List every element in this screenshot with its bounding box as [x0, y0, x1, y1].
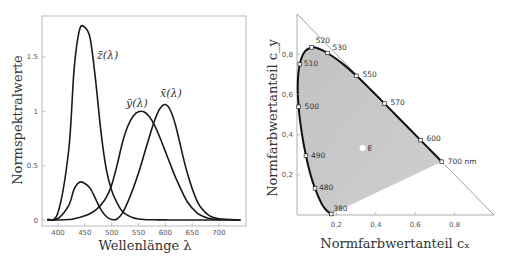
svg-text:600: 600: [159, 229, 172, 237]
svg-text:700: 700: [212, 229, 225, 237]
label-x-bar: x̄(λ): [160, 87, 182, 100]
white-point-e: [360, 145, 366, 151]
svg-text:490: 490: [311, 151, 326, 160]
marker-520: [310, 46, 314, 50]
svg-text:510: 510: [304, 59, 319, 68]
marker-570: [383, 102, 387, 106]
x-axis-label: Wellenlänge λ: [98, 238, 191, 253]
svg-text:550: 550: [132, 229, 145, 237]
svg-text:0,8: 0,8: [282, 51, 293, 59]
svg-text:650: 650: [185, 229, 198, 237]
svg-text:1.5: 1.5: [27, 53, 38, 61]
svg-text:450: 450: [78, 229, 91, 237]
curves: [47, 26, 240, 220]
svg-text:520: 520: [316, 36, 331, 45]
svg-text:600: 600: [427, 134, 442, 143]
x-ticks: 400450500550600650700: [51, 223, 225, 237]
y-axis-label: Normspektralwerte: [10, 55, 25, 185]
svg-text:1: 1: [34, 108, 38, 116]
marker-510: [298, 62, 302, 66]
svg-text:0: 0: [34, 217, 38, 225]
label-z-bar: z̄(λ): [96, 49, 118, 62]
svg-text:0,6: 0,6: [410, 221, 422, 229]
svg-text:570: 570: [390, 98, 405, 107]
chromaticity-chart: 380480490500510520530550570600700 nmE 0,…: [265, 14, 494, 251]
x-ticks: 0,20,40,60,8: [331, 212, 460, 229]
marker-550: [355, 74, 359, 78]
svg-text:0,8: 0,8: [449, 221, 460, 229]
marker-500: [297, 105, 301, 109]
marker-600: [419, 138, 423, 142]
curve-2: [47, 26, 240, 220]
marker-480: [313, 187, 317, 191]
svg-text:0,4: 0,4: [370, 221, 382, 229]
x-axis-label: Normfarbwertanteil cₓ: [320, 236, 469, 251]
svg-text:530: 530: [332, 43, 347, 52]
svg-text:E: E: [368, 144, 373, 153]
svg-text:550: 550: [362, 70, 377, 79]
svg-text:480: 480: [319, 183, 334, 192]
svg-text:0,2: 0,2: [331, 221, 342, 229]
svg-text:700 nm: 700 nm: [448, 157, 477, 166]
svg-text:500: 500: [105, 229, 118, 237]
y-axis-label: Normfarbwertanteil c_y: [265, 38, 280, 196]
spectral-chart: 400450500550600650700 00.511.5 z̄(λ) ȳ(λ…: [0, 0, 505, 267]
marker-530: [326, 51, 330, 55]
svg-text:500: 500: [305, 102, 320, 111]
label-y-bar: ȳ(λ): [125, 97, 148, 110]
marker-490: [304, 154, 308, 158]
marker-700-nm: [440, 160, 444, 164]
svg-text:0,4: 0,4: [282, 131, 294, 139]
svg-text:0,6: 0,6: [282, 91, 294, 99]
curve-1: [47, 111, 240, 220]
svg-text:0,2: 0,2: [282, 171, 293, 179]
svg-text:0.5: 0.5: [27, 162, 38, 170]
curve-0: [47, 104, 240, 220]
svg-text:380: 380: [333, 204, 348, 213]
svg-text:400: 400: [51, 229, 64, 237]
